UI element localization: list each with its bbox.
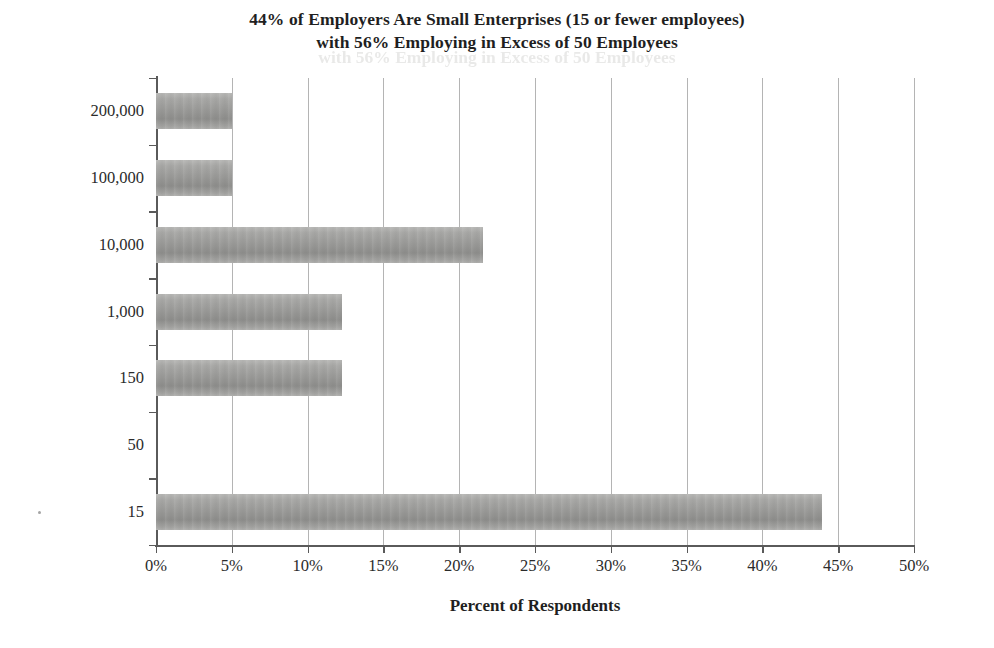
y-tick-label-15: 15 — [2, 502, 144, 522]
x-axis-title: Percent of Respondents — [156, 596, 914, 616]
bar-200000 — [156, 93, 232, 129]
scan-artifact-speck — [38, 511, 41, 514]
x-tick-label-25%: 25% — [500, 556, 570, 576]
x-tick-5% — [232, 546, 233, 553]
x-tick-label-30%: 30% — [576, 556, 646, 576]
x-tick-label-45%: 45% — [803, 556, 873, 576]
y-tick-0 — [149, 78, 156, 79]
bar-15 — [156, 494, 822, 530]
y-tick-label-150: 150 — [2, 368, 144, 388]
x-tick-label-35%: 35% — [652, 556, 722, 576]
y-tick-4 — [149, 345, 156, 346]
gridline-15 — [383, 78, 384, 545]
gridline-35 — [687, 78, 688, 545]
gridline-25 — [535, 78, 536, 545]
gridline-45 — [838, 78, 839, 545]
y-tick-1 — [149, 145, 156, 146]
bar-100000 — [156, 160, 232, 196]
x-tick-35% — [687, 546, 688, 553]
y-tick-label-50: 50 — [2, 435, 144, 455]
x-tick-20% — [459, 546, 460, 553]
bar-10000 — [156, 227, 483, 263]
y-axis-title: Number of Employees — [12, 0, 46, 112]
gridline-50 — [914, 78, 915, 545]
y-tick-label-1000: 1,000 — [2, 302, 144, 322]
y-tick-3 — [149, 278, 156, 279]
chart-title-line-1: 44% of Employers Are Small Enterprises (… — [0, 8, 994, 31]
x-tick-label-40%: 40% — [727, 556, 797, 576]
gridline-30 — [611, 78, 612, 545]
x-tick-label-15%: 15% — [348, 556, 418, 576]
x-tick-label-20%: 20% — [424, 556, 494, 576]
y-tick-label-100000: 100,000 — [2, 168, 144, 188]
y-tick-label-200000: 200,000 — [2, 101, 144, 121]
x-tick-label-0%: 0% — [121, 556, 191, 576]
plot-area: 200,000100,00010,0001,0001505015 — [156, 78, 914, 545]
gridline-40 — [762, 78, 763, 545]
y-tick-label-10000: 10,000 — [2, 235, 144, 255]
x-tick-10% — [308, 546, 309, 553]
x-tick-label-10%: 10% — [273, 556, 343, 576]
y-tick-7 — [149, 545, 156, 546]
x-tick-label-5%: 5% — [197, 556, 267, 576]
x-tick-40% — [762, 546, 763, 553]
x-tick-25% — [535, 546, 536, 553]
x-tick-30% — [611, 546, 612, 553]
chart-title-line-2: with 56% Employing in Excess of 50 Emplo… — [0, 31, 994, 54]
y-tick-6 — [149, 478, 156, 479]
bar-chart-figure: with 56% Employing in Excess of 50 Emplo… — [0, 0, 994, 648]
x-tick-0% — [156, 546, 157, 553]
y-tick-5 — [149, 412, 156, 413]
bar-1000 — [156, 294, 342, 330]
bar-150 — [156, 360, 342, 396]
x-tick-15% — [383, 546, 384, 553]
x-tick-50% — [914, 546, 915, 553]
x-tick-45% — [838, 546, 839, 553]
gridline-20 — [459, 78, 460, 545]
y-tick-2 — [149, 211, 156, 212]
x-tick-label-50%: 50% — [879, 556, 949, 576]
chart-title: 44% of Employers Are Small Enterprises (… — [0, 8, 994, 54]
